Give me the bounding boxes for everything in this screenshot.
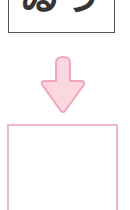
answer-box[interactable]	[7, 124, 118, 210]
arrow-down-icon	[38, 55, 88, 115]
source-box: ゐう	[8, 0, 115, 33]
handwritten-glyph: ゐう	[9, 0, 114, 15]
